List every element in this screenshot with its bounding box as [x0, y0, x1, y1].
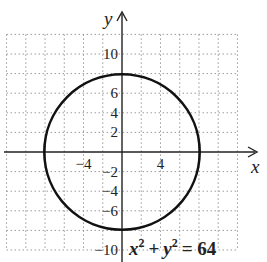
- y-tick-label: −6: [102, 203, 118, 219]
- plot-canvas: x y −4410642−2−4−6−10 x2+y2= 64: [0, 0, 267, 262]
- equation-rhs: = 64: [182, 238, 217, 259]
- equation-exp-x: 2: [139, 236, 145, 250]
- equation-exp-y: 2: [172, 236, 178, 250]
- y-axis-label: y: [102, 8, 113, 29]
- circle-graph: x y −4410642−2−4−6−10 x2+y2= 64: [0, 0, 267, 262]
- y-tick-label: 6: [111, 85, 119, 101]
- y-tick-label: 2: [111, 124, 119, 140]
- equation-y: y: [161, 238, 172, 259]
- y-tick-label: 4: [111, 105, 119, 121]
- y-tick-label: −2: [102, 164, 118, 180]
- equation-plus: +: [149, 238, 160, 259]
- equation-x: x: [128, 238, 139, 259]
- axes: x y: [4, 8, 260, 262]
- x-tick-label: 4: [157, 156, 165, 172]
- equation-label: x2+y2= 64: [128, 236, 217, 259]
- y-tick-label: 10: [103, 46, 118, 62]
- x-tick-label: −4: [76, 156, 92, 172]
- x-axis-label: x: [250, 156, 260, 177]
- y-tick-label: −4: [102, 183, 118, 199]
- y-tick-label: −10: [95, 242, 118, 258]
